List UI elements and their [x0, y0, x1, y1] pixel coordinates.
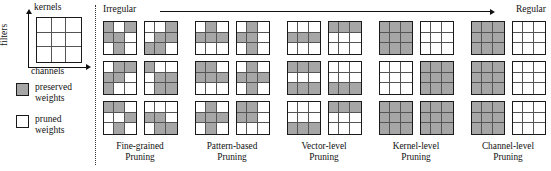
pruned-weight-cell	[523, 43, 534, 54]
preserved-weight-cell	[309, 62, 320, 73]
kernel	[103, 21, 137, 55]
pruned-weight-cell	[421, 33, 432, 44]
pruned-weight-cell	[237, 22, 248, 33]
preserved-weight-cell	[431, 113, 442, 124]
preserved-weight-cell	[493, 102, 504, 113]
kernel	[287, 21, 321, 55]
preserved-weight-cell	[125, 62, 136, 73]
preserved-weight-cell	[196, 113, 207, 124]
preserved-weight-cell	[339, 102, 350, 113]
pruned-weight-cell	[442, 22, 453, 33]
kernel	[236, 101, 270, 135]
preserved-weight-cell	[206, 73, 217, 84]
column-caption-line1: Kernel-level	[393, 141, 439, 152]
preserved-weight-cell	[442, 102, 453, 113]
preserved-weight-cell	[482, 123, 493, 134]
pruned-weight-cell	[401, 83, 412, 94]
axis-label-filters: filters	[0, 24, 9, 46]
pruned-weight-cell	[166, 43, 177, 54]
kernel-grid	[287, 61, 321, 95]
pruned-weight-cell	[339, 73, 350, 84]
column-caption: Channel-levelPruning	[482, 141, 534, 162]
kernel	[195, 101, 229, 135]
preserved-weight-cell	[421, 113, 432, 124]
spectrum-label-regular: Regular	[516, 4, 546, 14]
pruned-weight-cell	[104, 113, 115, 124]
pruned-weight-cell	[401, 62, 412, 73]
column-caption-line1: Pattern-based	[207, 141, 258, 152]
preserved-weight-cell	[288, 123, 299, 134]
preserved-weight-cell	[442, 113, 453, 124]
preserved-weight-cell	[442, 62, 453, 73]
pruned-weight-cell	[196, 83, 207, 94]
preserved-weight-cell	[493, 43, 504, 54]
preserved-weight-cell	[155, 123, 166, 134]
pruned-weight-cell	[288, 73, 299, 84]
kernel	[512, 21, 546, 55]
preserved-weight-cell	[442, 83, 453, 94]
pruned-weight-cell	[237, 43, 248, 54]
preserved-weight-cell	[217, 73, 228, 84]
pruned-weight-cell	[298, 43, 309, 54]
kernel	[512, 61, 546, 95]
pruned-weight-cell	[513, 113, 524, 124]
pruned-weight-cell	[155, 62, 166, 73]
kernel	[287, 101, 321, 135]
preserved-weight-cell	[104, 22, 115, 33]
preserved-weight-cell	[237, 33, 248, 44]
preserved-weight-cell	[493, 22, 504, 33]
kernel-grid	[471, 21, 505, 55]
legend-label-preserved-line1: preserved	[35, 82, 72, 93]
preserved-weight-cell	[431, 123, 442, 134]
pruned-weight-cell	[258, 83, 269, 94]
preserved-weight-cell	[155, 113, 166, 124]
preserved-weight-cell	[196, 73, 207, 84]
pruned-weight-cell	[217, 123, 228, 134]
preserved-weight-cell	[401, 43, 412, 54]
kernel	[144, 101, 178, 135]
pruned-weight-cell	[114, 22, 125, 33]
pruned-weight-cell	[329, 123, 340, 134]
preserved-weight-cell	[472, 33, 483, 44]
pruned-weight-cell	[258, 123, 269, 134]
pruned-weight-cell	[288, 102, 299, 113]
preserved-weight-cell	[298, 33, 309, 44]
kernel	[512, 101, 546, 135]
kernel	[144, 21, 178, 55]
preserved-weight-cell	[247, 43, 258, 54]
pruned-weight-cell	[534, 22, 545, 33]
kernel	[420, 101, 454, 135]
kernel	[195, 61, 229, 95]
preserved-weight-cell	[350, 83, 361, 94]
pruned-weight-cell	[196, 22, 207, 33]
kernel-grid	[236, 61, 270, 95]
preserved-weight-cell	[380, 33, 391, 44]
kernel-cell	[52, 33, 67, 48]
axis-label-channels: channels	[31, 66, 64, 76]
spectrum-label-irregular: Irregular	[103, 4, 136, 14]
legend-label-preserved-line2: weights	[35, 93, 72, 104]
pruned-weight-cell	[513, 123, 524, 134]
pruned-weight-cell	[288, 43, 299, 54]
kernel-grid	[103, 61, 137, 95]
kernel-grid	[420, 61, 454, 95]
kernel-matrix	[471, 21, 546, 135]
preserved-weight-cell	[217, 33, 228, 44]
preserved-weight-cell	[237, 73, 248, 84]
preserved-weight-cell	[206, 62, 217, 73]
kernel-grid	[512, 61, 546, 95]
preserved-weight-cell	[390, 22, 401, 33]
preserved-weight-cell	[401, 22, 412, 33]
kernel	[236, 61, 270, 95]
pruned-weight-cell	[380, 83, 391, 94]
preserved-weight-cell	[350, 102, 361, 113]
preserved-weight-cell	[472, 62, 483, 73]
kernel	[420, 61, 454, 95]
column-caption-line2: Pruning	[116, 152, 164, 163]
kernel-grid	[328, 21, 362, 55]
kernel	[103, 61, 137, 95]
preserved-weight-cell	[482, 73, 493, 84]
pruned-weight-cell	[523, 102, 534, 113]
column-caption: Fine-grainedPruning	[116, 141, 164, 162]
pruned-weight-cell	[166, 113, 177, 124]
